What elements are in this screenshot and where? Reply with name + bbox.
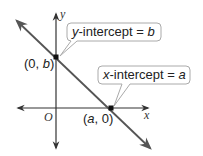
y-intercept-callout-text: y-intercept = b — [71, 24, 155, 39]
origin-label: O — [44, 110, 53, 124]
y-axis-label: y — [59, 7, 66, 21]
intercepts-diagram: y-intercept = b x-intercept = a (0, b) (… — [0, 0, 203, 156]
x-intercept-point — [109, 106, 114, 111]
x-intercept-callout-text: x-intercept = a — [102, 67, 186, 82]
y-intercept-label: (0, b) — [24, 56, 54, 71]
diagram-canvas: y-intercept = b x-intercept = a (0, b) (… — [0, 0, 203, 156]
x-axis-label: x — [143, 108, 150, 122]
x-intercept-label: (a, 0) — [83, 111, 113, 126]
